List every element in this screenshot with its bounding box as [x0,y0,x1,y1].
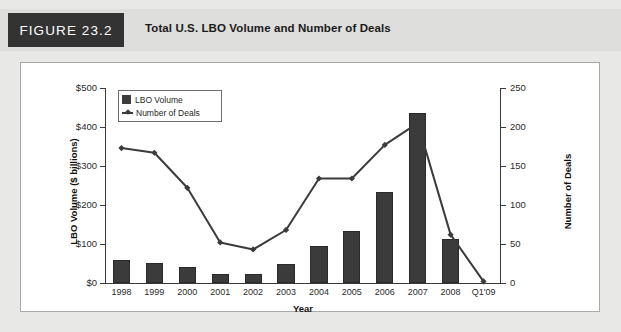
y-axis-left-tick-label: $0 [52,277,97,288]
bar-1999 [146,263,163,283]
y-axis-left-tick [100,88,105,89]
x-axis-label-1999: 1999 [138,287,171,297]
y-axis-left-tick [100,283,105,284]
y-axis-right-tick [501,88,506,89]
bar-swatch-icon [122,95,131,104]
bar-2005 [343,231,360,283]
x-axis-label-2007: 2007 [401,287,434,297]
x-axis-label-2008: 2008 [434,287,467,297]
bar-2003 [277,264,294,284]
y-axis-right-tick [501,283,506,284]
bar-2006 [376,192,393,283]
legend-item-lbo-volume: LBO Volume [122,93,218,106]
y-axis-right-tick [501,244,506,245]
figure-number-tag: FIGURE 23.2 [8,13,124,47]
y-axis-right-tick [501,127,506,128]
y-axis-right-title: Number of Deals [562,107,573,277]
y-axis-right-tick [501,166,506,167]
y-axis-right-tick-label: 0 [510,277,550,288]
x-axis-label-2000: 2000 [171,287,204,297]
line-marker-icon [122,108,133,117]
y-axis-left-title: LBO Volume ($ billions) [68,107,79,277]
y-axis-left-tick [100,244,105,245]
x-axis-label-2003: 2003 [270,287,303,297]
y-axis-left-tick [100,166,105,167]
y-axis-right-tick [501,205,506,206]
x-axis-label-2004: 2004 [303,287,336,297]
y-axis-left-line [105,88,106,284]
x-axis-label-1998: 1998 [105,287,138,297]
bar-2007 [409,113,426,283]
y-axis-right-tick-label: 200 [510,121,550,132]
y-axis-left-tick-label: $500 [52,82,97,93]
chart-legend: LBO Volume Number of Deals [118,90,222,122]
bar-2004 [310,246,327,283]
x-axis-line [105,283,501,284]
y-axis-right-tick-label: 100 [510,199,550,210]
bar-2001 [212,274,229,283]
x-axis-label-2005: 2005 [335,287,368,297]
y-axis-right-line [500,88,501,284]
bar-2002 [245,274,262,283]
y-axis-left-tick [100,127,105,128]
x-axis-label-2006: 2006 [368,287,401,297]
y-axis-right-tick-label: 150 [510,160,550,171]
x-axis-label-Q109: Q1'09 [467,287,500,297]
legend-label-number-of-deals: Number of Deals [136,108,200,118]
x-axis-label-2002: 2002 [237,287,270,297]
x-axis-label-2001: 2001 [204,287,237,297]
y-axis-left-tick [100,205,105,206]
legend-item-number-of-deals: Number of Deals [122,106,218,119]
x-axis-title: Year [105,303,501,314]
legend-label-lbo-volume: LBO Volume [135,95,183,105]
y-axis-right-tick-label: 250 [510,82,550,93]
y-axis-right-tick-label: 50 [510,238,550,249]
bar-2008 [442,239,459,283]
bar-1998 [113,260,130,283]
bar-2000 [179,267,196,283]
figure-title: Total U.S. LBO Volume and Number of Deal… [145,22,391,34]
